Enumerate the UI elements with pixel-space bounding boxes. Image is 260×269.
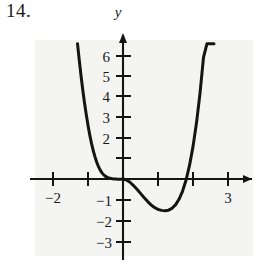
x-tick-label-3: 3 xyxy=(224,190,232,206)
y-tick-label-4: 4 xyxy=(103,89,111,105)
y-tick-label-5: 5 xyxy=(103,69,111,85)
y-tick-label-neg1: −1 xyxy=(96,193,112,209)
y-axis-arrow-icon xyxy=(119,33,127,43)
y-tick-label-6: 6 xyxy=(103,49,111,65)
y-tick-label-neg3: −3 xyxy=(96,235,112,251)
graph-figure: y −2 3 6 5 4 3 2 −1 −2 −3 xyxy=(0,0,260,269)
tick-labels-group: y −2 3 6 5 4 3 2 −1 −2 −3 xyxy=(45,4,232,251)
y-tick-label-3: 3 xyxy=(103,110,111,126)
y-axis-name-label: y xyxy=(113,4,122,20)
x-tick-label-neg2: −2 xyxy=(45,190,61,206)
y-tick-label-2: 2 xyxy=(103,131,111,147)
axes-group xyxy=(30,33,252,260)
figure-page: 14. y −2 xyxy=(0,0,260,269)
y-tick-label-neg2: −2 xyxy=(96,214,112,230)
x-axis-arrow-icon xyxy=(243,175,252,183)
